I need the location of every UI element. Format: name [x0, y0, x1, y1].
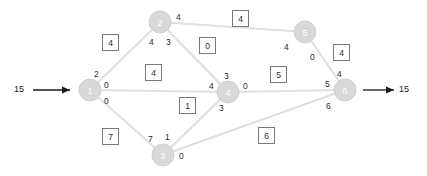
capacity-box-edge-1-2: 4: [102, 34, 119, 51]
source-arrow: [33, 87, 70, 94]
node-6-label: 6: [342, 86, 347, 96]
capacity-box-edge-1-3: 7: [102, 128, 119, 145]
capacity-box-edge-3-6: 6: [258, 127, 275, 144]
capacity-box-edge-3-4: 1: [179, 97, 196, 114]
capacity-box-edge-4-6: 5: [270, 66, 287, 83]
flow-label-node2-right: 4: [176, 13, 181, 22]
capacity-box-edge-1-4: 4: [145, 64, 162, 81]
node-4-label: 4: [225, 88, 230, 98]
flow-label-node4-left: 4: [209, 82, 214, 91]
capacity-box-edge-2-5: 4: [232, 10, 249, 27]
flow-label-node6-low: 6: [326, 102, 331, 111]
flow-label-node6-left: 5: [325, 80, 330, 89]
flow-label-node4-up: 3: [224, 72, 229, 81]
flow-label-node4-right: 0: [243, 82, 248, 91]
flow-label-node4-low: 3: [219, 104, 224, 113]
flow-label-node5-left: 4: [284, 43, 289, 52]
edge-1-3: [90, 90, 163, 155]
edge-2-4: [160, 22, 228, 92]
flow-label-node1-up: 2: [94, 70, 99, 79]
flow-label-node2-lower-right: 3: [166, 38, 171, 47]
flow-label-node5-low: 0: [310, 53, 315, 62]
network-flow-diagram: 1 2 3 4 5 6 15 15 2 0 0 4 4 3 3 4 0 3 7 …: [0, 0, 427, 176]
capacity-box-edge-5-6: 4: [333, 44, 350, 61]
flow-label-node1-mid: 0: [104, 81, 109, 90]
capacity-box-edge-2-4: 0: [199, 37, 216, 54]
node-3-label: 3: [160, 151, 165, 161]
node-5-label: 5: [302, 28, 307, 38]
node-group: 1 2 3 4 5 6: [79, 11, 356, 166]
sink-arrow-head: [386, 87, 394, 94]
sink-outflow-label: 15: [399, 85, 409, 94]
node-1-label: 1: [87, 86, 92, 96]
sink-arrow: [363, 87, 394, 94]
flow-label-node2-lower-left: 4: [149, 38, 154, 47]
source-inflow-label: 15: [14, 85, 24, 94]
edge-1-4: [90, 90, 228, 92]
flow-label-node6-up: 4: [337, 70, 342, 79]
flow-label-node1-low: 0: [104, 97, 109, 106]
flow-label-node3-upper-right: 1: [165, 133, 170, 142]
flow-label-node3-right: 0: [179, 152, 184, 161]
node-2-label: 2: [157, 18, 162, 28]
source-arrow-head: [62, 87, 70, 94]
flow-label-node3-upper-left: 7: [148, 135, 153, 144]
